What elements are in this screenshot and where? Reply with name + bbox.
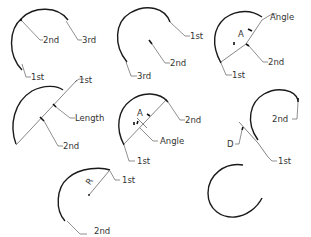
label-length: Length [75, 113, 104, 123]
label-1st: 1st [31, 72, 45, 82]
label-2nd: 2nd [63, 141, 79, 151]
label-radius: R [83, 176, 95, 187]
panel-three-points: 2nd 3rd 1st [12, 9, 97, 82]
arc-continue [208, 165, 262, 218]
label-angle: Angle [160, 136, 184, 146]
angle-letter: A [238, 29, 244, 39]
label-direction: D [227, 139, 234, 149]
label-angle: Angle [270, 12, 294, 22]
panel-start-end-angle: A 2nd Angle 1st [119, 94, 201, 166]
panel-start-end-direction: 2nd D 1st [227, 90, 298, 166]
label-2nd: 2nd [94, 226, 110, 236]
label-1st: 1st [278, 156, 292, 166]
label-1st: 1st [122, 175, 136, 185]
label-2nd: 2nd [43, 35, 59, 45]
label-2nd: 2nd [268, 57, 284, 67]
label-2nd: 2nd [170, 58, 186, 68]
label-2nd: 2nd [272, 114, 288, 124]
panel-start-center-end: 1st 2nd 3rd [118, 8, 204, 81]
label-1st: 1st [79, 75, 93, 85]
arc-methods-diagram: 2nd 3rd 1st 1st 2nd 3rd Angle A 2nd 1st [0, 0, 311, 237]
angle-letter: A [137, 108, 143, 118]
arc-start-center-end [118, 8, 170, 62]
label-3rd: 3rd [82, 35, 96, 45]
arc-start-end-radius [58, 168, 110, 221]
panel-continue [208, 165, 262, 218]
label-1st: 1st [232, 70, 246, 80]
label-1st: 1st [137, 156, 151, 166]
label-1st: 1st [190, 31, 204, 41]
label-3rd: 3rd [137, 71, 151, 81]
panel-start-center-angle: Angle A 2nd 1st [215, 12, 295, 81]
arc-start-center-length [13, 86, 63, 144]
label-2nd: 2nd [185, 115, 201, 125]
panel-start-end-radius: R 1st 2nd [58, 168, 136, 236]
panel-start-center-length: 1st Length 2nd [13, 75, 104, 151]
